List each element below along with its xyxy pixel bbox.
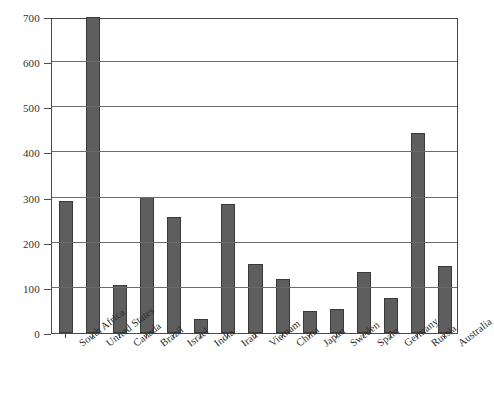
x-tick-label: Australia — [456, 316, 494, 349]
x-tick-mark — [309, 334, 310, 338]
x-tick-mark — [65, 334, 66, 338]
x-tick-mark — [227, 334, 228, 338]
x-tick-label: India — [212, 326, 236, 348]
x-tick-mark — [200, 334, 201, 338]
x-tick-label: Iran — [239, 329, 259, 348]
x-tick-mark — [119, 334, 120, 338]
x-tick-mark — [417, 334, 418, 338]
x-tick-label: Israel — [185, 325, 211, 348]
x-tick-label: Sweden — [348, 319, 381, 349]
x-tick-mark — [336, 334, 337, 338]
x-tick-mark — [92, 334, 93, 338]
x-tick-label: Japan — [321, 325, 347, 349]
x-tick-mark — [444, 334, 445, 338]
x-tick-mark — [146, 334, 147, 338]
x-tick-mark — [282, 334, 283, 338]
x-tick-mark — [363, 334, 364, 338]
x-tick-mark — [173, 334, 174, 338]
x-tick-mark — [390, 334, 391, 338]
x-tick-mark — [255, 334, 256, 338]
